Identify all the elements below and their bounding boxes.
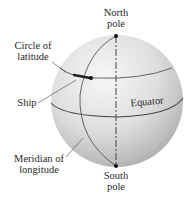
latitude-label-line2: latitude [8,51,58,62]
north-pole-label-line1: North [96,7,136,18]
meridian-label-line2: longitude [7,164,71,175]
meridian-label-line1: Meridian of [7,153,71,164]
latitude-label-line1: Circle of [8,40,58,51]
north-pole-label-line2: pole [96,18,136,29]
south-pole-label-line2: pole [96,181,136,192]
north-pole-point [114,34,118,38]
south-pole-point [114,164,118,168]
south-pole-label: South pole [96,170,136,192]
ship-label-text: Ship [17,97,36,108]
meridian-label: Meridian of longitude [7,153,71,175]
south-pole-label-line1: South [96,170,136,181]
circle-of-latitude-label: Circle of latitude [8,40,58,62]
ship-label: Ship [12,97,42,108]
north-pole-label: North pole [96,7,136,29]
